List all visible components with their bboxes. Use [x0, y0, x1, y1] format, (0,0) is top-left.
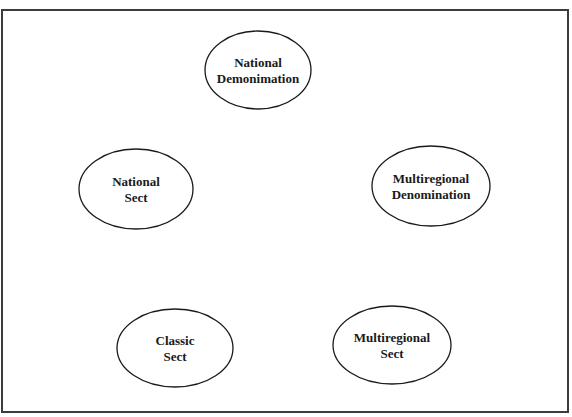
node-classic-sect: Classic Sect [117, 309, 233, 387]
node-multiregional-denomination: Multiregional Denomination [372, 146, 490, 226]
node-label-line-1: National [234, 55, 282, 70]
node-label-line-1: National [112, 174, 160, 189]
node-label-line-2: Denomination [392, 187, 472, 202]
diagram-canvas: National Demonimation National Sect Mult… [0, 0, 572, 417]
node-label-line-2: Sect [163, 349, 187, 364]
node-label-line-1: Classic [156, 333, 195, 348]
node-multiregional-sect: Multiregional Sect [333, 306, 451, 384]
node-label-line-2: Sect [380, 346, 404, 361]
node-label-line-1: Multiregional [354, 330, 431, 345]
node-label-line-2: Demonimation [217, 71, 300, 86]
node-label-line-2: Sect [124, 190, 148, 205]
node-national-denomination: National Demonimation [205, 31, 311, 109]
node-national-sect: National Sect [79, 149, 193, 229]
node-label-line-1: Multiregional [393, 171, 470, 186]
